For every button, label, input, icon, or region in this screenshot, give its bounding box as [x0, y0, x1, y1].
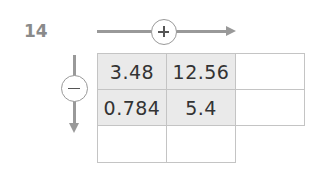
question-number: 14 [24, 21, 48, 41]
grid-cell-r3c2[interactable] [166, 125, 236, 163]
grid-cell-r2c3[interactable] [235, 89, 305, 126]
grid-cell-r3c1[interactable] [97, 125, 167, 163]
grid-cell-r1c2: 12.56 [166, 53, 236, 90]
grid-cell-r1c3[interactable] [235, 53, 305, 90]
grid-cell-r1c1: 3.48 [97, 53, 167, 90]
grid-cell-r2c2: 5.4 [166, 89, 236, 126]
addition-arrow-head-icon [226, 26, 236, 36]
grid-cell-r2c1: 0.784 [97, 89, 167, 126]
subtraction-arrow-head-icon [69, 123, 79, 133]
minus-icon [61, 75, 88, 102]
plus-icon [151, 19, 177, 45]
